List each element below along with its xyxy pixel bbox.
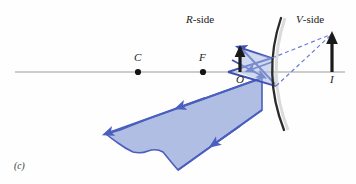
r-side-italic: R	[186, 13, 193, 25]
v-side-rest: -side	[303, 13, 324, 25]
ray-diagram-figure: R-side V-side C F O I (c)	[0, 0, 356, 184]
r-side-label: R-side	[186, 13, 214, 25]
v-side-italic: V	[296, 13, 303, 25]
label-c: C	[134, 51, 141, 63]
point-marker-f	[200, 69, 206, 75]
figure-caption: (c)	[14, 161, 25, 171]
incident-ray-bundle	[106, 78, 262, 170]
r-side-rest: -side	[193, 13, 214, 25]
virtual-ray-dashed-2	[276, 34, 332, 86]
label-i: I	[330, 73, 334, 85]
label-o: O	[236, 73, 244, 85]
diagram-canvas	[0, 0, 356, 184]
point-marker-c	[135, 69, 141, 75]
v-side-label: V-side	[296, 13, 324, 25]
label-f: F	[199, 51, 206, 63]
